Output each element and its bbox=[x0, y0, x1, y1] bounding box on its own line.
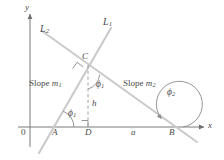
slope-m2-subscript: 2 bbox=[152, 82, 155, 88]
altitude-label-h: h bbox=[92, 99, 97, 108]
base-label-a: a bbox=[131, 128, 136, 137]
phi1-C-subscript: 1 bbox=[101, 82, 104, 89]
line-L2-label: L2 bbox=[40, 24, 49, 35]
angle-arc-phi2-at-B bbox=[156, 81, 202, 127]
slope-m1-text: Slope bbox=[29, 78, 52, 88]
slope-m1-subscript: 1 bbox=[58, 82, 61, 88]
slope-m2-text: Slope bbox=[123, 78, 146, 88]
line-L2-label-subscript: 2 bbox=[46, 27, 49, 34]
line-L1-label-subscript: 1 bbox=[109, 20, 112, 27]
angle-label-phi2-at-B: ϕ2 bbox=[167, 88, 175, 98]
geometry-figure: y x 0 L2 L1 C Slope m1 Slope m2 ϕ1 h ϕ1 … bbox=[0, 0, 224, 160]
point-label-C: C bbox=[82, 52, 88, 61]
line-L1 bbox=[39, 28, 111, 153]
slope-m1-label: Slope m1 bbox=[29, 79, 61, 88]
point-label-B: B bbox=[169, 128, 175, 137]
point-label-A: A bbox=[52, 128, 58, 137]
phi2-B-subscript: 2 bbox=[172, 90, 175, 97]
slope-m2-label: Slope m2 bbox=[123, 79, 155, 88]
point-label-D: D bbox=[85, 128, 92, 137]
origin-label: 0 bbox=[21, 128, 26, 137]
phi1-A-subscript: 1 bbox=[73, 111, 76, 118]
angle-label-phi1-at-A: ϕ1 bbox=[68, 109, 76, 119]
line-L2-label-base: L bbox=[40, 23, 46, 34]
line-L1-label: L1 bbox=[103, 17, 112, 28]
x-axis-label: x bbox=[208, 121, 212, 130]
right-angle-marker-at-C bbox=[73, 62, 84, 68]
y-axis-label: y bbox=[25, 3, 29, 12]
line-L1-label-base: L bbox=[103, 16, 109, 27]
line-L2 bbox=[42, 31, 197, 142]
angle-label-phi1-at-C: ϕ1 bbox=[96, 80, 104, 90]
